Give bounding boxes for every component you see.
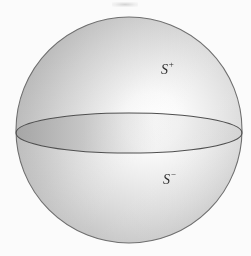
upper-hemisphere-label-base: S xyxy=(161,62,168,77)
sphere-diagram xyxy=(0,0,251,256)
upper-hemisphere-label-superscript: + xyxy=(169,59,174,69)
figure-canvas: S+ S− xyxy=(0,0,251,256)
upper-hemisphere-label: S+ xyxy=(161,61,174,77)
lower-hemisphere-label: S− xyxy=(163,171,176,187)
lower-hemisphere-label-superscript: − xyxy=(171,169,176,179)
lower-hemisphere-label-base: S xyxy=(163,172,170,187)
